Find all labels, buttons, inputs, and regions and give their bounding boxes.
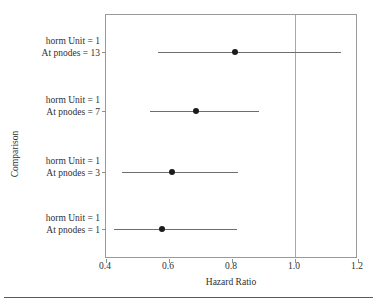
estimate-marker-1 [193,108,199,114]
ci-whisker-1 [150,111,259,112]
plot-area [105,14,357,258]
y-axis-tick-1 [102,111,106,112]
y-axis-label-row-3: horm Unit = 1 At pnodes = 1 [0,213,100,236]
y-axis-label-row-0-line2: At pnodes = 13 [0,48,100,60]
estimate-marker-0 [232,49,238,55]
y-axis-label-row-2: horm Unit = 1 At pnodes = 3 [0,156,100,179]
forest-plot-figure: Comparison horm Unit = 1 At pnodes = 13 … [0,0,377,307]
x-axis-ticklabel-3: 1.0 [274,261,314,271]
y-axis-label-row-0: horm Unit = 1 At pnodes = 13 [0,36,100,59]
ci-whisker-2 [122,172,238,173]
y-axis-label-row-0-line1: horm Unit = 1 [0,36,100,48]
x-axis-ticklabel-1: 0.6 [148,261,188,271]
ci-row-2 [106,168,356,178]
y-axis-label-row-1: horm Unit = 1 At pnodes = 7 [0,95,100,118]
y-axis-label-row-1-line1: horm Unit = 1 [0,95,100,107]
estimate-marker-2 [169,169,175,175]
ci-whisker-3 [114,229,237,230]
x-axis-ticklabel-0: 0.4 [85,261,125,271]
y-axis-tick-0 [102,52,106,53]
y-axis-label-row-3-line2: At pnodes = 1 [0,225,100,237]
ci-row-1 [106,107,356,117]
y-axis-tick-2 [102,172,106,173]
x-axis-title: Hazard Ratio [105,277,357,287]
y-axis-tick-3 [102,229,106,230]
page-divider-rule [4,297,373,298]
ci-row-0 [106,48,356,58]
y-axis-label-row-2-line2: At pnodes = 3 [0,168,100,180]
y-axis-label-row-2-line1: horm Unit = 1 [0,156,100,168]
estimate-marker-3 [159,226,165,232]
ci-row-3 [106,225,356,235]
x-axis-ticklabel-4: 1.2 [337,261,377,271]
x-axis-ticklabel-2: 0.8 [211,261,251,271]
ci-whisker-0 [158,52,341,53]
y-axis-label-row-1-line2: At pnodes = 7 [0,107,100,119]
y-axis-label-row-3-line1: horm Unit = 1 [0,213,100,225]
